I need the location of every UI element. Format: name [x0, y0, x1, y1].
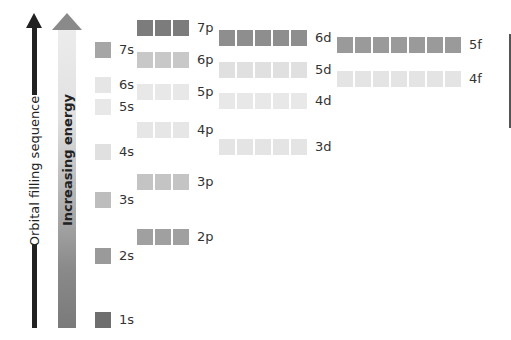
- subshell-3d: 3d: [219, 139, 332, 155]
- orbital-box: [219, 139, 235, 155]
- filling-sequence-shaft-bottom: [32, 245, 37, 328]
- subshell-label: 5d: [315, 62, 332, 78]
- orbital-box: [273, 30, 289, 46]
- orbital-box: [237, 93, 253, 109]
- subshell-label: 6p: [197, 52, 214, 68]
- arrow-head-icon: [52, 13, 82, 30]
- orbital-box: [173, 84, 189, 100]
- subshell-4f: 4f: [337, 71, 482, 87]
- subshell-label: 3s: [119, 192, 134, 208]
- orbital-box: [137, 122, 153, 138]
- subshell-label: 7p: [197, 20, 214, 36]
- orbital-boxes: [95, 99, 111, 115]
- orbital-boxes: [137, 122, 189, 138]
- orbital-box: [337, 71, 353, 87]
- orbital-boxes: [219, 93, 307, 109]
- orbital-boxes: [95, 312, 111, 328]
- subshell-6s: 6s: [95, 77, 134, 93]
- subshell-7s: 7s: [95, 42, 134, 58]
- orbital-box: [237, 30, 253, 46]
- orbital-box: [255, 139, 271, 155]
- orbital-box: [173, 52, 189, 68]
- orbital-boxes: [95, 77, 111, 93]
- orbital-box: [155, 229, 171, 245]
- subshell-1s: 1s: [95, 312, 134, 328]
- subshell-5f: 5f: [337, 37, 482, 53]
- orbital-box: [237, 62, 253, 78]
- orbital-box: [391, 37, 407, 53]
- orbital-boxes: [337, 71, 461, 87]
- orbital-box: [137, 229, 153, 245]
- orbital-box: [255, 30, 271, 46]
- orbital-box: [95, 192, 111, 208]
- subshell-6p: 6p: [137, 52, 214, 68]
- orbital-box: [373, 71, 389, 87]
- subshell-label: 4p: [197, 122, 214, 138]
- subshell-label: 3d: [315, 139, 332, 155]
- orbital-box: [173, 122, 189, 138]
- subshell-2s: 2s: [95, 248, 134, 264]
- orbital-box: [291, 139, 307, 155]
- subshell-label: 4f: [469, 71, 482, 87]
- orbital-boxes: [219, 139, 307, 155]
- orbital-boxes: [137, 20, 189, 36]
- orbital-box: [273, 139, 289, 155]
- orbital-box: [255, 93, 271, 109]
- orbital-box: [155, 84, 171, 100]
- subshell-3s: 3s: [95, 192, 134, 208]
- subshell-label: 1s: [119, 312, 134, 328]
- orbital-boxes: [95, 192, 111, 208]
- subshell-label: 5s: [119, 99, 134, 115]
- orbital-box: [137, 84, 153, 100]
- orbital-box: [155, 52, 171, 68]
- orbital-box: [355, 37, 371, 53]
- subshell-label: 5p: [197, 84, 214, 100]
- orbital-box: [219, 62, 235, 78]
- subshell-label: 4s: [119, 144, 134, 160]
- subshell-5p: 5p: [137, 84, 214, 100]
- orbital-boxes: [219, 62, 307, 78]
- subshell-label: 2p: [197, 229, 214, 245]
- orbital-box: [173, 174, 189, 190]
- orbital-box: [337, 37, 353, 53]
- subshell-7p: 7p: [137, 20, 214, 36]
- filling-sequence-shaft-top: [32, 27, 37, 95]
- orbital-boxes: [95, 42, 111, 58]
- orbital-box: [155, 122, 171, 138]
- orbital-box: [291, 30, 307, 46]
- subshell-label: 2s: [119, 248, 134, 264]
- orbital-box: [291, 62, 307, 78]
- orbital-boxes: [219, 30, 307, 46]
- orbital-boxes: [95, 144, 111, 160]
- orbital-box: [155, 20, 171, 36]
- orbital-boxes: [137, 229, 189, 245]
- orbital-box: [219, 30, 235, 46]
- orbital-box: [445, 37, 461, 53]
- orbital-box: [95, 99, 111, 115]
- orbital-box: [137, 52, 153, 68]
- orbital-box: [409, 37, 425, 53]
- orbital-boxes: [337, 37, 461, 53]
- orbital-box: [255, 62, 271, 78]
- orbital-box: [155, 174, 171, 190]
- filling-sequence-label: Orbital filling sequence: [27, 96, 42, 247]
- orbital-box: [427, 37, 443, 53]
- orbital-box: [409, 71, 425, 87]
- subshell-label: 6s: [119, 77, 134, 93]
- subshell-3p: 3p: [137, 174, 214, 190]
- orbital-boxes: [137, 174, 189, 190]
- orbital-box: [291, 93, 307, 109]
- orbital-box: [95, 248, 111, 264]
- orbital-box: [391, 71, 407, 87]
- subshell-4s: 4s: [95, 144, 134, 160]
- orbital-box: [273, 62, 289, 78]
- orbital-box: [445, 71, 461, 87]
- orbital-boxes: [95, 248, 111, 264]
- orbital-box: [137, 20, 153, 36]
- subshell-2p: 2p: [137, 229, 214, 245]
- orbital-box: [273, 93, 289, 109]
- arrow-head-icon: [26, 13, 42, 28]
- orbital-box: [427, 71, 443, 87]
- subshell-5d: 5d: [219, 62, 332, 78]
- subshell-4p: 4p: [137, 122, 214, 138]
